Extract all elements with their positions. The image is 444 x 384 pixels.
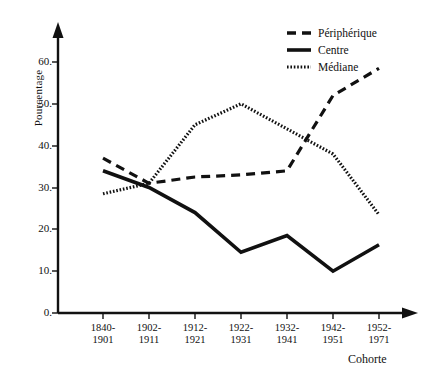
x-tick-label-1942-1951: 1942- 1951 xyxy=(307,322,359,345)
x-axis-title: Cohorte xyxy=(348,352,387,367)
x-tick-label-1912-1921: 1912- 1921 xyxy=(169,322,221,345)
line-chart: Pourcentage 60. 50. 40. 30. 20. 10. 0. xyxy=(0,0,444,384)
legend-label-centre: Centre xyxy=(318,44,349,56)
legend: Périphérique Centre Médiane xyxy=(286,24,377,75)
legend-item-peripherique: Périphérique xyxy=(286,24,377,41)
solid-line-key-icon xyxy=(286,44,312,56)
x-tick-label-1902-1911: 1902- 1911 xyxy=(123,322,175,345)
legend-label-peripherique: Périphérique xyxy=(318,27,377,39)
series-lines xyxy=(103,68,379,271)
x-tick-label-1952-1971: 1952- 1971 xyxy=(353,322,405,345)
dashed-line-key-icon xyxy=(286,27,312,39)
legend-item-mediane: Médiane xyxy=(286,58,377,75)
series-line-peripherique xyxy=(103,68,379,183)
x-tick-label-1932-1941: 1932- 1941 xyxy=(261,322,313,345)
legend-item-centre: Centre xyxy=(286,41,377,58)
series-line-mediane xyxy=(103,104,379,215)
x-axis xyxy=(58,308,418,319)
dotted-line-key-icon xyxy=(286,61,312,73)
x-tick-label-1840-1901: 1840- 1901 xyxy=(77,322,129,345)
y-axis xyxy=(53,22,64,313)
x-tick-label-1922-1931: 1922- 1931 xyxy=(215,322,267,345)
legend-label-mediane: Médiane xyxy=(318,61,358,73)
